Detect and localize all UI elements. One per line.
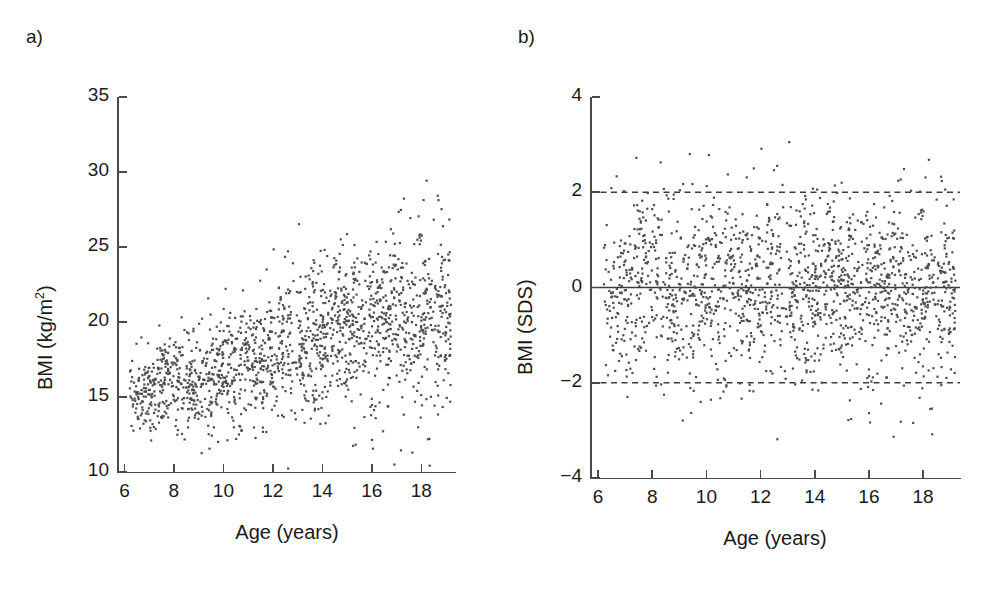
panel-a-y-axis-title: BMI (kg/m2) — [34, 285, 57, 390]
panel-b-x-tick-label: 14 — [790, 486, 840, 508]
panel-b-x-tick-mark — [706, 470, 708, 478]
panel-b-y-tick-label: 4 — [524, 84, 582, 106]
panel-a-x-tick-mark — [173, 464, 175, 472]
panel-b-x-tick-mark — [814, 470, 816, 478]
panel-b-x-tick-mark — [597, 470, 599, 478]
panel-a-x-tick-mark — [322, 464, 324, 472]
panel-a-y-axis-line — [117, 97, 119, 473]
panel-b-x-axis-line — [590, 478, 961, 480]
figure-scatter-bmi-panels: a) 101520253035 681012141618 Age (years)… — [0, 0, 992, 592]
panel-b-x-tick-mark — [651, 470, 653, 478]
panel-b-x-tick-mark — [922, 470, 924, 478]
panel-b-x-axis-title: Age (years) — [655, 527, 895, 550]
panel-a-y-tick-label: 20 — [51, 309, 109, 331]
panel-a-x-tick-mark — [124, 464, 126, 472]
panel-a-label: a) — [26, 26, 43, 48]
panel-b-x-tick-label: 12 — [736, 486, 786, 508]
panel-a-y-tick-mark — [119, 471, 127, 473]
panel-a-x-tick-label: 18 — [396, 480, 446, 502]
panel-a-plot-area — [117, 97, 455, 472]
panel-a: a) 101520253035 681012141618 Age (years)… — [0, 0, 500, 592]
panel-b-x-tick-label: 6 — [573, 486, 623, 508]
panel-b-scatter-points — [590, 97, 960, 478]
panel-a-x-axis-title: Age (years) — [167, 521, 407, 544]
panel-a-x-tick-mark — [421, 464, 423, 472]
panel-b-plot-area — [590, 97, 960, 478]
panel-b-y-tick-mark — [592, 287, 600, 289]
panel-a-x-tick-label: 10 — [198, 480, 248, 502]
panel-b-y-tick-label: −4 — [524, 465, 582, 487]
panel-a-y-tick-label: 25 — [51, 234, 109, 256]
panel-a-x-axis-line — [117, 472, 456, 474]
panel-b-x-tick-label: 8 — [627, 486, 677, 508]
panel-b-x-tick-label: 16 — [844, 486, 894, 508]
panel-a-y-tick-mark — [119, 396, 127, 398]
panel-b-label: b) — [518, 26, 535, 48]
panel-a-scatter-points — [117, 97, 455, 472]
panel-b-y-tick-mark — [592, 96, 600, 98]
panel-a-x-tick-mark — [272, 464, 274, 472]
panel-b-y-tick-label: 2 — [524, 179, 582, 201]
y-axis-title-text: BMI (kg/m — [34, 299, 56, 390]
panel-a-y-tick-label: 30 — [51, 159, 109, 181]
y-axis-title-text: BMI (SDS) — [514, 279, 536, 375]
panel-b-x-tick-label: 18 — [898, 486, 948, 508]
panel-b-x-tick-mark — [760, 470, 762, 478]
panel-a-y-tick-label: 15 — [51, 384, 109, 406]
y-axis-title-exponent: 2 — [33, 292, 47, 299]
panel-b-x-tick-mark — [868, 470, 870, 478]
panel-b: b) −4−2024 681012141618 Age (years) BMI … — [492, 0, 992, 592]
panel-a-x-tick-label: 6 — [99, 480, 149, 502]
panel-a-x-tick-label: 12 — [248, 480, 298, 502]
panel-a-y-tick-mark — [119, 96, 127, 98]
panel-a-y-tick-mark — [119, 321, 127, 323]
panel-a-y-tick-mark — [119, 246, 127, 248]
panel-a-x-tick-label: 8 — [149, 480, 199, 502]
panel-a-y-tick-mark — [119, 171, 127, 173]
panel-a-y-tick-label: 35 — [51, 84, 109, 106]
panel-a-x-tick-mark — [223, 464, 225, 472]
panel-a-x-tick-mark — [371, 464, 373, 472]
panel-b-y-tick-mark — [592, 191, 600, 193]
y-axis-title-close: ) — [34, 285, 56, 292]
panel-b-y-axis-title: BMI (SDS) — [514, 279, 537, 375]
panel-a-y-tick-label: 10 — [51, 459, 109, 481]
panel-a-x-tick-label: 16 — [347, 480, 397, 502]
panel-b-x-tick-label: 10 — [681, 486, 731, 508]
panel-a-x-tick-label: 14 — [297, 480, 347, 502]
panel-b-y-tick-mark — [592, 382, 600, 384]
